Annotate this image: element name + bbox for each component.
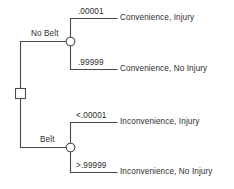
probability-inconvenience-no-injury: >.99999 bbox=[76, 162, 107, 170]
outcome-label-convenience-injury: Convenience, Injury bbox=[120, 14, 194, 22]
decision-tree-diagram: No Belt Belt .00001 .99999 <.00001 >.999… bbox=[0, 0, 234, 189]
probability-convenience-injury: .00001 bbox=[78, 8, 104, 16]
chance-node-top-circle[interactable] bbox=[66, 37, 75, 46]
decision-node-square[interactable] bbox=[16, 89, 26, 99]
outcome-label-convenience-no-injury: Convenience, No Injury bbox=[120, 65, 207, 73]
branch-label-belt: Belt bbox=[40, 136, 55, 144]
outcome-label-inconvenience-no-injury: Inconvenience, No Injury bbox=[120, 168, 213, 176]
branch-label-no-belt: No Belt bbox=[31, 30, 59, 38]
chance-node-bottom-circle[interactable] bbox=[66, 143, 75, 152]
probability-inconvenience-injury: <.00001 bbox=[76, 112, 107, 120]
probability-convenience-no-injury: .99999 bbox=[78, 59, 104, 67]
outcome-label-inconvenience-injury: Inconvenience, Injury bbox=[120, 118, 199, 126]
